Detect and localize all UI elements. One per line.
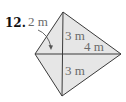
problem-number: 12.	[5, 16, 26, 30]
label-3m-upper: 3 m	[65, 28, 85, 43]
label-2m: 2 m	[28, 14, 48, 29]
kite-diagram: 12. 2 m 3 m 4 m 3 m	[0, 0, 126, 102]
label-4m: 4 m	[84, 39, 104, 54]
label-3m-lower: 3 m	[65, 63, 85, 78]
